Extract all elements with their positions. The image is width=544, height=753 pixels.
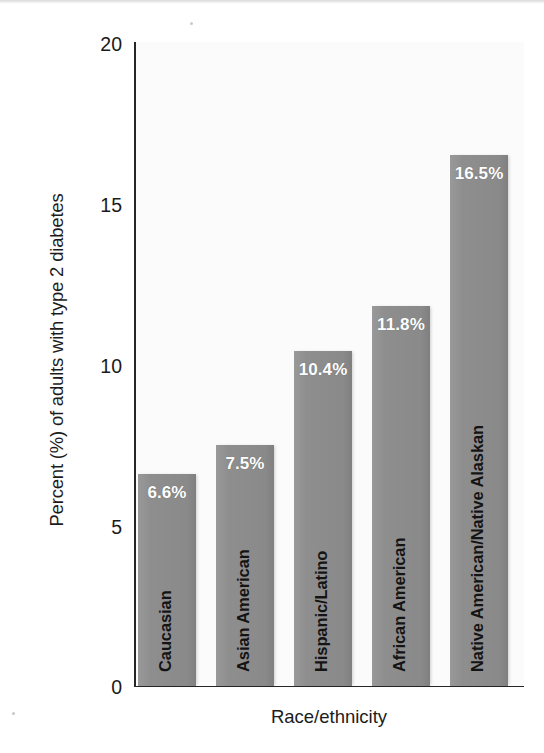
plot-area: 6.6% Caucasian 7.5% Asian American 10.4%…: [136, 42, 524, 686]
y-tick-label-20: 20: [82, 35, 122, 55]
bar-hispanic-latino[interactable]: 10.4% Hispanic/Latino: [294, 351, 352, 686]
bar-category-label: African American: [390, 538, 409, 672]
y-tick-label-15: 15: [82, 196, 122, 216]
bar-african-american[interactable]: 11.8% African American: [372, 306, 430, 686]
y-axis-tick-labels: 20 15 10 5 0: [72, 0, 122, 753]
bar-category-label: Asian American: [234, 549, 253, 672]
bar-value-label: 7.5%: [216, 454, 274, 474]
bar-value-label: 11.8%: [372, 315, 430, 335]
scan-speck: [190, 22, 193, 25]
bar-category-label: Caucasian: [156, 590, 175, 672]
bar-asian-american[interactable]: 7.5% Asian American: [216, 445, 274, 686]
y-axis-title-wrap: Percent (%) of adults with type 2 diabet…: [6, 20, 46, 720]
bar-caucasian[interactable]: 6.6% Caucasian: [138, 474, 196, 686]
y-tick-label-5: 5: [82, 518, 122, 538]
y-tick-label-10: 10: [82, 357, 122, 377]
bar-value-label: 10.4%: [294, 360, 352, 380]
bar-category-label: Hispanic/Latino: [312, 551, 331, 672]
bar-category-label: Native American/Native Alaskan: [468, 425, 487, 672]
y-axis-title: Percent (%) of adults with type 2 diabet…: [40, 10, 74, 710]
bar-value-label: 16.5%: [450, 164, 508, 184]
bar-chart-figure: Percent (%) of adults with type 2 diabet…: [0, 0, 544, 753]
x-axis-title: Race/ethnicity: [134, 706, 524, 728]
bar-value-label: 6.6%: [138, 483, 196, 503]
bar-native-american-native-alaskan[interactable]: 16.5% Native American/Native Alaskan: [450, 155, 508, 686]
y-tick-label-0: 0: [82, 678, 122, 698]
